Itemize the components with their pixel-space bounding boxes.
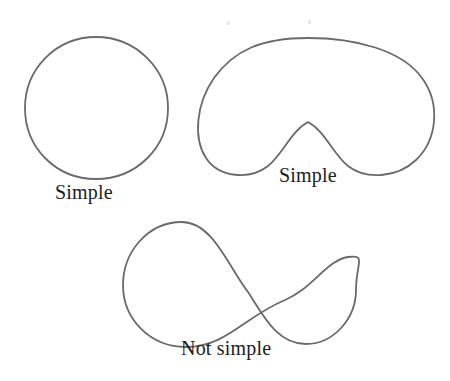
caption-circle-curve: Simple xyxy=(55,182,113,202)
figure-eight-curve xyxy=(123,222,359,347)
caption-bean-curve: Simple xyxy=(279,165,337,185)
scan-artifact-speck-right xyxy=(308,20,311,24)
caption-figure-eight-curve: Not simple xyxy=(181,338,271,358)
circle-curve xyxy=(25,37,168,179)
bean-curve xyxy=(198,38,434,175)
scan-artifact-speck-left xyxy=(227,21,230,25)
figure-canvas: Simple Simple Not simple xyxy=(0,0,450,381)
